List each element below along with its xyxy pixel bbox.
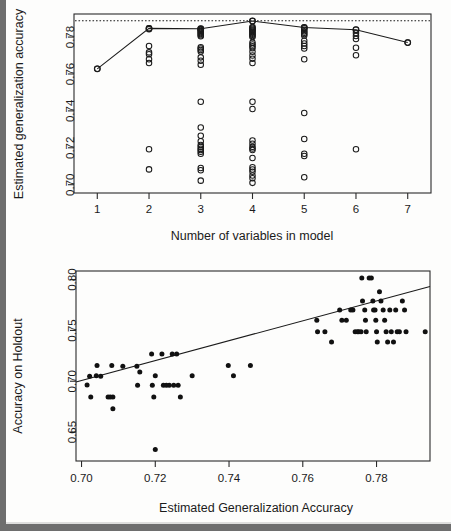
bottom-data-point [226, 363, 231, 368]
top-x-ticklabel: 3 [198, 203, 204, 215]
bottom-data-point [171, 383, 176, 388]
top-data-point [146, 43, 152, 49]
bottom-data-point [150, 383, 155, 388]
bottom-data-point [400, 298, 405, 303]
bottom-data-point [350, 308, 355, 313]
bottom-data-point [377, 289, 382, 294]
bottom-data-point [339, 318, 344, 323]
bottom-data-point [176, 383, 181, 388]
top-data-point [301, 136, 307, 142]
top-y-ticklabel: 0.72 [64, 137, 76, 159]
bottom-data-point [381, 308, 386, 313]
top-x-ticklabel: 7 [405, 203, 411, 215]
top-data-point [250, 106, 256, 112]
top-chart-container: 0.700.720.740.760.781234567 Estimated ge… [6, 0, 451, 258]
bottom-data-point [359, 276, 364, 281]
bottom-data-point [385, 340, 390, 345]
top-data-point [301, 56, 307, 62]
top-data-point [198, 178, 204, 184]
bottom-chart-svg: 0.650.700.750.800.700.720.740.760.78 Acc… [6, 258, 451, 531]
bottom-data-point [360, 298, 365, 303]
bottom-data-point [109, 363, 114, 368]
bottom-x-ticklabel: 0.76 [292, 472, 314, 484]
bottom-data-point [344, 318, 349, 323]
bottom-y-ticklabel: 0.80 [66, 268, 78, 290]
bottom-data-point [315, 329, 320, 334]
top-data-point [250, 99, 256, 105]
top-y-ticklabel: 0.74 [64, 99, 76, 122]
bottom-data-point [167, 383, 172, 388]
bottom-data-point [374, 329, 379, 334]
bottom-data-point [370, 298, 375, 303]
top-data-point [198, 62, 204, 68]
top-chart-ylabel: Estimated generalization accuracy [12, 8, 26, 199]
bottom-data-point [174, 352, 179, 357]
bottom-chart-ylabel: Accuracy on Holdout [11, 318, 25, 434]
bottom-data-point [423, 329, 428, 334]
top-data-point [353, 45, 359, 51]
top-data-point [146, 60, 152, 66]
top-data-point [146, 167, 152, 173]
bottom-data-point [248, 363, 253, 368]
top-plot-frame [74, 14, 431, 193]
bottom-data-point [134, 364, 139, 369]
top-data-point [198, 99, 204, 105]
top-data-point [301, 110, 307, 116]
top-data-point [198, 133, 204, 139]
bottom-data-point [393, 308, 398, 313]
bottom-data-point [153, 447, 158, 452]
bottom-data-point [384, 329, 389, 334]
figure-page: 0.700.720.740.760.781234567 Estimated ge… [0, 0, 451, 531]
bottom-data-point [190, 373, 195, 378]
top-x-ticklabel: 5 [301, 203, 307, 215]
bottom-data-point [322, 329, 327, 334]
bottom-data-point [151, 394, 156, 399]
top-data-point [250, 155, 256, 161]
top-y-ticklabel: 0.78 [64, 26, 76, 48]
bottom-data-point [363, 318, 368, 323]
bottom-plot-frame [76, 271, 430, 461]
bottom-data-point [94, 373, 99, 378]
bottom-chart-xlabel: Estimated Generalization Accuracy [159, 501, 354, 515]
top-chart-xlabel: Number of variables in model [171, 229, 334, 243]
bottom-data-point [87, 374, 92, 379]
top-chart-svg: 0.700.720.740.760.781234567 Estimated ge… [6, 0, 451, 258]
top-data-point [353, 147, 359, 153]
top-data-point [250, 60, 256, 66]
bottom-regression-line [76, 287, 430, 382]
bottom-data-point [373, 308, 378, 313]
top-x-ticklabel: 1 [94, 203, 100, 215]
bottom-data-point [120, 364, 125, 369]
bottom-data-point [329, 340, 334, 345]
top-data-point [353, 52, 359, 58]
top-y-ticklabel: 0.76 [64, 63, 76, 85]
bottom-data-point [378, 298, 383, 303]
bottom-x-ticklabel: 0.72 [144, 472, 166, 484]
bottom-data-point [85, 383, 90, 388]
bottom-data-point [314, 318, 319, 323]
bottom-data-point [95, 363, 100, 368]
bottom-data-point [98, 374, 103, 379]
bottom-data-point [110, 406, 115, 411]
bottom-data-point [364, 329, 369, 334]
bottom-data-point [110, 394, 115, 399]
bottom-x-ticklabel: 0.74 [218, 472, 241, 484]
top-x-ticklabel: 6 [353, 203, 359, 215]
bottom-data-point [402, 308, 407, 313]
bottom-y-ticklabel: 0.75 [66, 319, 78, 341]
bottom-data-point [362, 308, 367, 313]
bottom-y-ticklabel: 0.65 [66, 421, 78, 443]
bottom-data-point [170, 352, 175, 357]
bottom-chart-container: 0.650.700.750.800.700.720.740.760.78 Acc… [6, 258, 451, 531]
bottom-data-point [387, 308, 392, 313]
top-y-ticklabel: 0.70 [64, 174, 76, 196]
bottom-data-point [369, 276, 374, 281]
bottom-data-point [135, 383, 140, 388]
bottom-data-point [375, 340, 380, 345]
bottom-data-point [404, 329, 409, 334]
bottom-data-point [159, 352, 164, 357]
top-data-point [146, 147, 152, 153]
bottom-data-point [391, 340, 396, 345]
top-x-ticklabel: 2 [146, 203, 152, 215]
bottom-data-point [397, 329, 402, 334]
